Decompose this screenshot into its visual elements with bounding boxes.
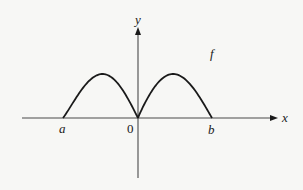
function-label: f xyxy=(210,46,216,61)
origin-label: 0 xyxy=(127,121,134,136)
function-graph: x y f a 0 b xyxy=(0,0,303,190)
point-label-a: a xyxy=(59,121,66,136)
x-axis-label: x xyxy=(281,110,288,125)
y-axis-arrow-icon xyxy=(135,27,141,35)
curve-arch-left xyxy=(63,74,138,118)
x-axis-arrow-icon xyxy=(270,115,278,121)
curve-arch-right xyxy=(138,74,212,118)
y-axis-label: y xyxy=(133,12,141,27)
point-label-b: b xyxy=(208,122,215,137)
